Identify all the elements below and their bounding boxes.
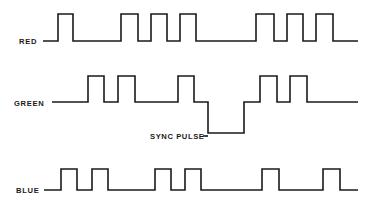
green-channel-label: GREEN bbox=[14, 99, 45, 108]
sync-pulse-label: SYNC PULSE bbox=[150, 132, 205, 141]
blue-channel-trace bbox=[44, 169, 358, 190]
red-channel-label: RED bbox=[19, 37, 37, 46]
green-channel-trace bbox=[52, 76, 358, 133]
channel-labels: REDGREENBLUE bbox=[14, 37, 45, 195]
annotations: SYNC PULSE bbox=[150, 132, 208, 141]
signal-traces bbox=[43, 14, 358, 190]
blue-channel-label: BLUE bbox=[16, 186, 39, 195]
waveform-diagram: REDGREENBLUE SYNC PULSE bbox=[0, 0, 365, 219]
red-channel-trace bbox=[43, 14, 358, 41]
waveform-figure: REDGREENBLUE SYNC PULSE bbox=[0, 0, 365, 219]
